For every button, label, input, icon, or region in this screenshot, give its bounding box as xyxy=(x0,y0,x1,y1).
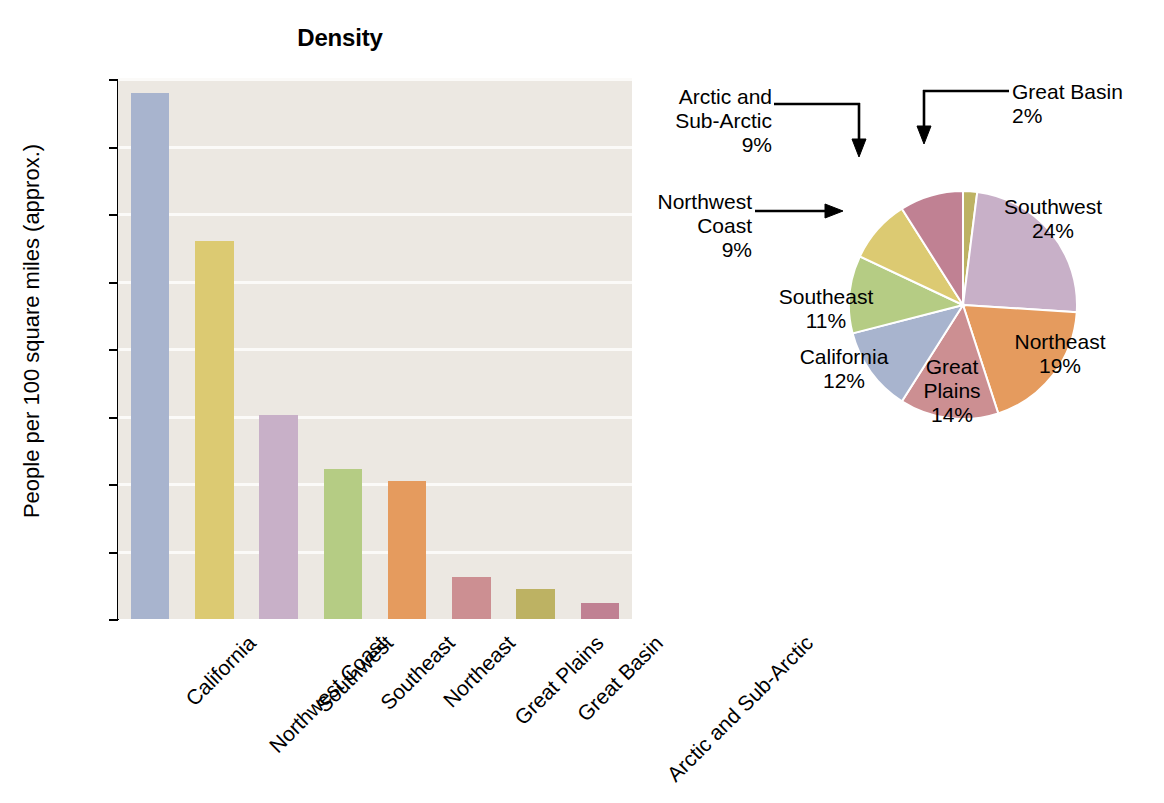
pie-label-southwest: Southwest 24% xyxy=(978,195,1128,243)
pie-label-line: Arctic and xyxy=(640,85,772,109)
pie-label-northwest-coast: Northwest Coast 9% xyxy=(632,190,752,262)
bar xyxy=(259,415,298,619)
bar xyxy=(131,93,170,620)
pie-label-arctic-and-sub-arctic: Arctic and Sub-Arctic 9% xyxy=(640,85,772,157)
bar xyxy=(195,241,234,619)
pie-label-value: 9% xyxy=(632,238,752,262)
density-bar-chart-panel: Density People per 100 square miles (app… xyxy=(0,0,660,760)
pie-label-value: 14% xyxy=(904,403,1000,427)
northwest-coast-leader-arrow xyxy=(753,202,845,220)
y-axis-tick-mark xyxy=(109,417,118,419)
pie-label-line: Great Basin xyxy=(1012,80,1162,104)
pie-label-line: Southeast xyxy=(766,285,886,309)
pie-label-value: 19% xyxy=(990,354,1130,378)
pie-label-line: Great xyxy=(904,355,1000,379)
gridline xyxy=(118,213,632,216)
pie-label-line: Southwest xyxy=(978,195,1128,219)
bar-chart-title: Density xyxy=(180,24,500,52)
y-axis-tick-mark xyxy=(109,552,118,554)
y-axis-tick-mark xyxy=(109,619,118,621)
pie-label-great-plains: Great Plains 14% xyxy=(904,355,1000,427)
gridline xyxy=(118,78,632,81)
pie-label-line: Plains xyxy=(904,379,1000,403)
pie-label-line: Coast xyxy=(632,214,752,238)
pie-label-line: Sub-Arctic xyxy=(640,109,772,133)
pie-label-value: 2% xyxy=(1012,104,1162,128)
great-basin-leader-arrow xyxy=(911,84,1011,146)
arctic-leader-arrow xyxy=(772,97,884,159)
pie-label-line: Northwest xyxy=(632,190,752,214)
pie-label-california: California 12% xyxy=(784,345,904,393)
y-axis-tick-mark xyxy=(109,147,118,149)
bar xyxy=(324,469,363,619)
pie-label-line: California xyxy=(784,345,904,369)
y-axis-tick-mark xyxy=(109,214,118,216)
gridline xyxy=(118,146,632,149)
bar xyxy=(452,577,491,619)
pie-label-value: 9% xyxy=(640,133,772,157)
bar xyxy=(388,481,427,619)
y-axis-title: People per 100 square miles (approx.) xyxy=(19,121,45,541)
bar-plot-area xyxy=(118,79,632,619)
y-axis-tick-mark xyxy=(109,349,118,351)
y-axis-tick-mark xyxy=(109,484,118,486)
bar xyxy=(516,589,555,619)
pie-label-line: Northeast xyxy=(990,330,1130,354)
pie-label-great-basin: Great Basin 2% xyxy=(1012,80,1162,128)
pie-label-value: 11% xyxy=(766,309,886,333)
y-axis-tick-mark xyxy=(109,79,118,81)
bar xyxy=(581,603,620,619)
pie-label-value: 12% xyxy=(784,369,904,393)
y-axis-tick-mark xyxy=(109,282,118,284)
location-pie-chart-panel: Location Arctic and Sub-Arctic 9% Great … xyxy=(640,0,1164,760)
x-axis-tick-label: California xyxy=(181,631,261,711)
pie-label-value: 24% xyxy=(978,219,1128,243)
pie-label-southeast: Southeast 11% xyxy=(766,285,886,333)
pie-label-northeast: Northeast 19% xyxy=(990,330,1130,378)
